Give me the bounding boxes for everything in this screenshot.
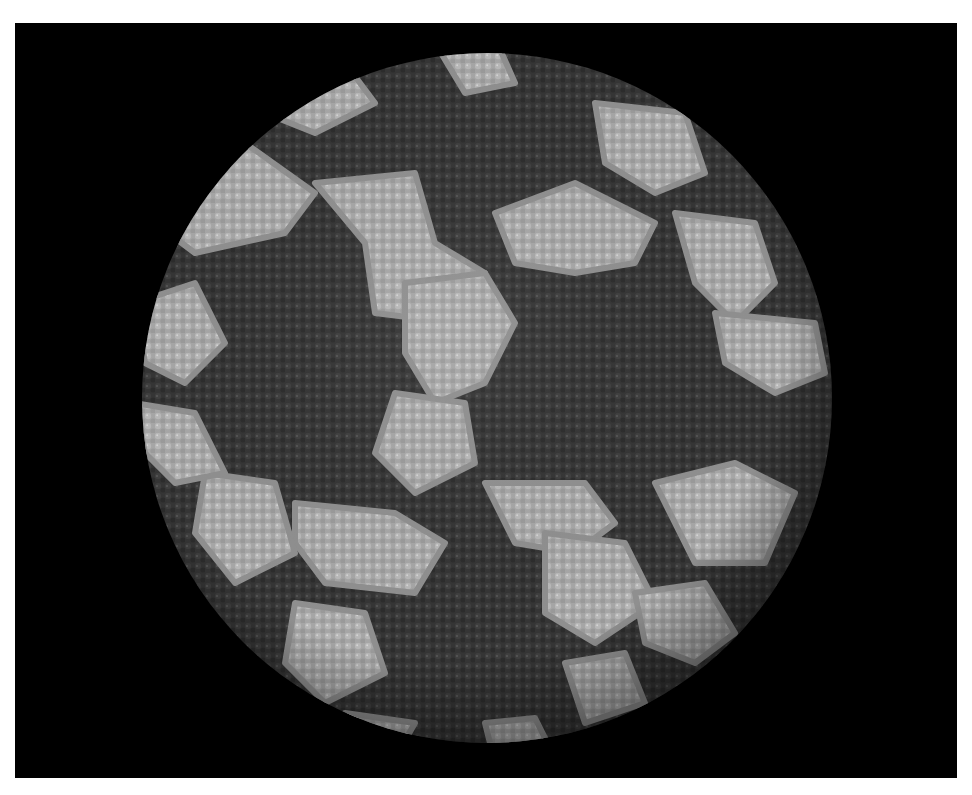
virus-capsid-render <box>15 23 957 778</box>
capsid-shading <box>142 53 832 743</box>
render-panel <box>15 23 957 778</box>
